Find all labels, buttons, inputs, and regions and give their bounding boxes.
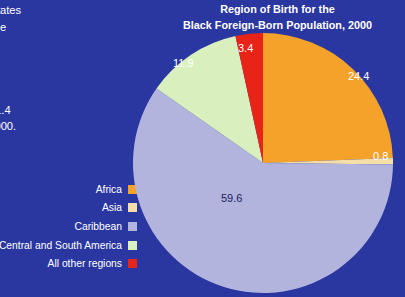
- body-copy-line: portion: [0, 68, 114, 85]
- body-copy-line: e United: [0, 35, 114, 52]
- chart-title-line-1: Region of Birth for the: [150, 2, 405, 18]
- legend-item-label: Central and South America: [0, 240, 122, 251]
- legend-item-caribbean[interactable]: Caribbean: [0, 217, 137, 236]
- chart-legend: Africa Asia Caribbean Central and South …: [0, 180, 137, 273]
- legend-item-africa[interactable]: Africa: [0, 180, 137, 199]
- body-copy-line: e year 2000.: [0, 118, 114, 135]
- chart-figure: United States cent of the e United arriv…: [0, 0, 405, 297]
- pie-slice[interactable]: [263, 33, 393, 163]
- pie-label-central-and-south-america: 11.9: [173, 57, 194, 69]
- pie-chart: 3.4 11.9 24.4 0.8 59.6: [132, 32, 394, 294]
- legend-item-asia[interactable]: Asia: [0, 199, 137, 218]
- legend-item-central-and-south-america[interactable]: Central and South America: [0, 236, 137, 255]
- chart-title: Region of Birth for the Black Foreign-Bo…: [150, 2, 405, 33]
- body-copy-line: ted for 41.4: [0, 102, 114, 119]
- body-copy-line: n arrived: [0, 85, 114, 102]
- body-copy-line: pulation: [0, 135, 114, 152]
- legend-item-label: Caribbean: [74, 221, 122, 232]
- pie-label-caribbean: 59.6: [221, 192, 242, 204]
- chart-title-line-2: Black Foreign-Born Population, 2000: [150, 18, 405, 34]
- legend-item-all-other-regions[interactable]: All other regions: [0, 254, 137, 273]
- body-copy-line: cent of the: [0, 19, 114, 36]
- legend-item-label: Africa: [96, 184, 122, 195]
- pie-label-all-other-regions: 3.4: [238, 42, 253, 54]
- legend-item-label: Asia: [102, 202, 122, 213]
- body-copy-paragraph: United States cent of the e United arriv…: [0, 2, 114, 151]
- body-copy-line: United States: [0, 2, 114, 19]
- pie-label-africa: 24.4: [348, 70, 369, 82]
- legend-item-label: All other regions: [48, 258, 122, 269]
- body-copy-line: arrived: [0, 52, 114, 69]
- pie-label-asia: 0.8: [373, 150, 388, 162]
